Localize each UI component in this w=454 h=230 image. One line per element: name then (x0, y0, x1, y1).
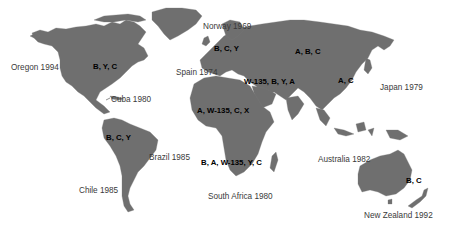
place-label-south-africa: South Africa 1980 (208, 192, 273, 201)
place-label-norway: Norway 1969 (203, 22, 251, 31)
landmass-arctic-islands (94, 14, 146, 22)
race-label-north-america: B, Y, C (93, 62, 117, 71)
place-label-oregon: Oregon 1994 (11, 63, 59, 72)
place-label-cuba: Cuba 1980 (111, 95, 151, 104)
landmass-madagascar (270, 152, 278, 172)
place-label-brazil: Brazil 1985 (149, 153, 190, 162)
race-label-australia: B, C (406, 176, 422, 185)
landmass-southeast-asia (316, 108, 330, 126)
race-label-china: A, C (338, 76, 354, 85)
place-label-spain: Spain 1974 (176, 68, 217, 77)
place-label-japan: Japan 1979 (380, 83, 423, 92)
leader-cuba (106, 98, 110, 100)
landmass-uk (202, 36, 210, 46)
landmass-india (286, 96, 304, 120)
landmass-indonesia (334, 122, 374, 136)
place-label-chile: Chile 1985 (79, 186, 118, 195)
landmass-greenland (152, 8, 202, 40)
place-label-new-zealand: New Zealand 1992 (364, 211, 433, 220)
race-label-russia-asia: A, B, C (295, 47, 321, 56)
landmass-new-guinea (386, 130, 408, 140)
landmass-new-zealand (408, 188, 428, 208)
race-label-north-africa: A, W-135, C, X (197, 106, 249, 115)
race-label-middle-east: W-135, B, Y, A (244, 77, 295, 86)
race-label-southern-africa: B, A, W-135, Y, C (201, 158, 262, 167)
place-label-australia: Australia 1982 (318, 155, 370, 164)
landmass-tasmania (388, 199, 392, 204)
race-label-europe: B, C, Y (214, 44, 239, 53)
race-label-south-america: B, C, Y (106, 133, 131, 142)
